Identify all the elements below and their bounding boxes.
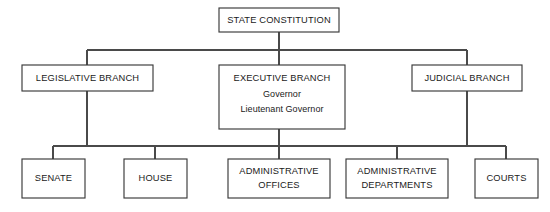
node-label-executive-lieutenant-governor: Lieutenant Governor — [240, 104, 323, 114]
node-label-administrative-offices-line2: OFFICES — [258, 180, 299, 190]
node-label-administrative-departments-line1: ADMINISTRATIVE — [357, 166, 436, 176]
node-label-house: HOUSE — [139, 173, 173, 183]
node-label-state-constitution: STATE CONSTITUTION — [227, 15, 331, 25]
node-label-administrative-departments-line2: DEPARTMENTS — [361, 180, 432, 190]
node-label-senate: SENATE — [35, 173, 72, 183]
node-judicial-branch[interactable]: JUDICIAL BRANCH — [412, 65, 522, 91]
node-label-executive-governor: Governor — [263, 89, 301, 99]
node-administrative-departments[interactable]: ADMINISTRATIVE DEPARTMENTS — [346, 159, 448, 198]
node-label-administrative-offices-line1: ADMINISTRATIVE — [239, 166, 318, 176]
node-house[interactable]: HOUSE — [124, 159, 187, 198]
node-legislative-branch[interactable]: LEGISLATIVE BRANCH — [22, 65, 153, 91]
node-state-constitution[interactable]: STATE CONSTITUTION — [219, 8, 339, 32]
node-executive-branch[interactable]: EXECUTIVE BRANCH Governor Lieutenant Gov… — [219, 65, 345, 129]
node-senate[interactable]: SENATE — [22, 159, 85, 198]
node-label-judicial-branch: JUDICIAL BRANCH — [424, 73, 509, 83]
org-chart-svg: STATE CONSTITUTION LEGISLATIVE BRANCH EX… — [0, 0, 550, 212]
org-chart-container: STATE CONSTITUTION LEGISLATIVE BRANCH EX… — [0, 0, 550, 212]
node-label-executive-branch: EXECUTIVE BRANCH — [234, 73, 331, 83]
node-box-administrative-departments — [346, 159, 448, 198]
node-administrative-offices[interactable]: ADMINISTRATIVE OFFICES — [228, 159, 330, 198]
node-courts[interactable]: COURTS — [475, 159, 538, 198]
node-label-legislative-branch: LEGISLATIVE BRANCH — [36, 73, 139, 83]
node-label-courts: COURTS — [487, 173, 527, 183]
node-box-administrative-offices — [228, 159, 330, 198]
